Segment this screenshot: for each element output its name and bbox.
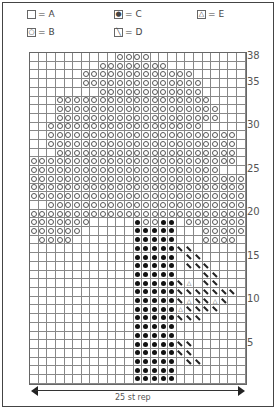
chart-cell xyxy=(82,192,91,201)
chart-cell xyxy=(220,131,229,140)
chart-cell xyxy=(142,227,151,236)
chart-cell xyxy=(99,332,108,341)
chart-cell xyxy=(30,114,39,123)
chart-cell xyxy=(30,262,39,271)
chart-cell xyxy=(194,262,203,271)
chart-cell xyxy=(211,244,220,253)
chart-cell xyxy=(203,192,212,201)
chart-cell xyxy=(142,157,151,166)
chart-cell xyxy=(177,358,186,367)
chart-cell xyxy=(220,314,229,323)
chart-cell xyxy=(177,53,186,62)
chart-cell xyxy=(228,62,237,71)
chart-cell xyxy=(177,262,186,271)
chart-cell xyxy=(168,218,177,227)
chart-cell xyxy=(56,192,65,201)
chart-cell xyxy=(228,323,237,332)
chart-cell xyxy=(108,123,117,132)
chart-cell xyxy=(56,79,65,88)
chart-cell xyxy=(185,140,194,149)
chart-cell xyxy=(177,192,186,201)
chart-cell xyxy=(203,218,212,227)
chart-cell xyxy=(220,262,229,271)
chart-cell xyxy=(90,88,99,97)
chart-cell xyxy=(237,271,246,280)
chart-cell xyxy=(237,218,246,227)
chart-cell xyxy=(211,227,220,236)
chart-cell xyxy=(151,79,160,88)
chart-cell xyxy=(142,53,151,62)
chart-cell xyxy=(134,53,143,62)
chart-cell xyxy=(125,149,134,158)
chart-cell xyxy=(65,157,74,166)
chart-cell xyxy=(228,184,237,193)
chart-cell xyxy=(65,97,74,106)
knitting-chart-grid xyxy=(29,52,247,385)
chart-cell xyxy=(82,297,91,306)
chart-cell xyxy=(39,105,48,114)
chart-cell xyxy=(90,366,99,375)
chart-cell xyxy=(30,53,39,62)
chart-cell xyxy=(73,88,82,97)
chart-cell xyxy=(47,253,56,262)
chart-cell xyxy=(185,157,194,166)
chart-cell xyxy=(116,53,125,62)
chart-cell xyxy=(220,149,229,158)
chart-cell xyxy=(168,279,177,288)
chart-cell xyxy=(39,262,48,271)
chart-cell xyxy=(177,218,186,227)
chart-cell xyxy=(47,366,56,375)
chart-cell xyxy=(168,314,177,323)
chart-cell xyxy=(90,149,99,158)
chart-cell xyxy=(116,79,125,88)
chart-cell xyxy=(151,88,160,97)
chart-cell xyxy=(194,201,203,210)
chart-cell xyxy=(56,175,65,184)
chart-cell xyxy=(203,305,212,314)
chart-cell xyxy=(237,114,246,123)
chart-cell xyxy=(90,305,99,314)
chart-cell xyxy=(39,184,48,193)
chart-cell xyxy=(125,358,134,367)
legend-item-d: ╲ = D xyxy=(114,27,142,37)
chart-cell xyxy=(30,157,39,166)
chart-cell xyxy=(65,279,74,288)
chart-cell xyxy=(73,244,82,253)
chart-cell xyxy=(228,131,237,140)
chart-cell xyxy=(211,131,220,140)
chart-cell xyxy=(73,140,82,149)
chart-cell xyxy=(108,97,117,106)
chart-cell xyxy=(151,53,160,62)
chart-cell xyxy=(125,279,134,288)
chart-cell xyxy=(125,70,134,79)
chart-cell xyxy=(168,305,177,314)
chart-cell xyxy=(185,70,194,79)
chart-cell xyxy=(90,140,99,149)
chart-cell xyxy=(220,279,229,288)
chart-cell xyxy=(125,218,134,227)
chart-cell xyxy=(194,192,203,201)
chart-cell xyxy=(90,218,99,227)
chart-cell xyxy=(56,262,65,271)
chart-cell xyxy=(237,288,246,297)
chart-cell xyxy=(203,271,212,280)
chart-cell xyxy=(56,253,65,262)
chart-cell xyxy=(142,210,151,219)
chart-cell xyxy=(211,366,220,375)
chart-cell xyxy=(73,53,82,62)
chart-cell xyxy=(177,271,186,280)
chart-cell xyxy=(177,297,186,306)
chart-cell xyxy=(108,88,117,97)
chart-cell xyxy=(82,262,91,271)
chart-cell xyxy=(220,366,229,375)
chart-cell xyxy=(168,297,177,306)
chart-cell xyxy=(194,253,203,262)
chart-cell xyxy=(237,210,246,219)
chart-cell xyxy=(39,244,48,253)
chart-cell xyxy=(228,271,237,280)
chart-cell xyxy=(177,314,186,323)
chart-cell xyxy=(185,53,194,62)
chart-cell xyxy=(116,70,125,79)
chart-cell xyxy=(56,218,65,227)
chart-cell xyxy=(159,62,168,71)
